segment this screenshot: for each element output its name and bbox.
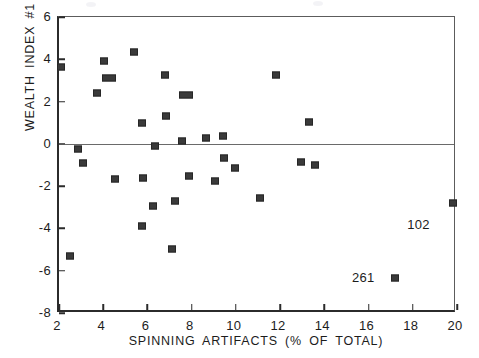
y-tick-label: -4 [23, 220, 51, 235]
y-tick [59, 101, 65, 103]
x-tick [279, 304, 281, 310]
data-point [202, 134, 210, 141]
data-point [256, 194, 264, 201]
data-point [220, 154, 228, 161]
y-tick [59, 270, 65, 272]
y-tick-label: -6 [23, 262, 51, 277]
point-label-102: 102 [407, 217, 430, 232]
plot-area [57, 16, 455, 312]
data-point [179, 92, 193, 99]
data-point [139, 174, 147, 181]
y-tick [59, 16, 65, 18]
x-tick-label: 20 [447, 318, 462, 333]
scan-artifact [86, 2, 96, 7]
data-point [149, 203, 157, 210]
data-point [178, 137, 186, 144]
data-point [211, 177, 219, 184]
zero-reference-line [59, 144, 454, 146]
x-tick [412, 304, 414, 310]
data-point [138, 223, 146, 230]
y-tick-label: -8 [23, 305, 51, 320]
x-tick-label: 16 [359, 318, 374, 333]
data-point [57, 63, 65, 70]
y-tick [59, 59, 65, 61]
y-axis-label: WEALTH INDEX #1 [23, 0, 37, 167]
point-label-261: 261 [352, 270, 375, 285]
x-tick [324, 304, 326, 310]
data-point [311, 162, 319, 169]
data-point [391, 275, 399, 282]
x-tick [191, 304, 193, 310]
data-point [162, 113, 170, 120]
y-tick [59, 185, 65, 187]
x-tick-label: 8 [186, 318, 194, 333]
data-point [151, 142, 159, 149]
x-tick-label: 4 [97, 318, 105, 333]
data-point [79, 159, 87, 166]
x-tick [456, 304, 458, 310]
data-point [102, 75, 116, 82]
x-axis-label: SPINNING ARTIFACTS (% OF TOTAL) [57, 334, 455, 348]
data-point [161, 72, 169, 79]
data-point [111, 175, 119, 182]
data-point [272, 72, 280, 79]
data-point [130, 48, 138, 55]
scan-artifact [313, 1, 323, 6]
data-point [185, 172, 193, 179]
data-point [100, 58, 108, 65]
x-tick [58, 304, 60, 310]
y-tick-label: -2 [23, 178, 51, 193]
x-tick-label: 12 [271, 318, 286, 333]
x-tick-label: 14 [315, 318, 330, 333]
data-point [74, 146, 82, 153]
x-tick-label: 18 [403, 318, 418, 333]
data-point [168, 245, 176, 252]
x-tick [102, 304, 104, 310]
x-tick-label: 10 [226, 318, 241, 333]
y-tick [59, 312, 65, 314]
data-point [93, 90, 101, 97]
x-tick [368, 304, 370, 310]
data-point [219, 133, 227, 140]
x-tick-label: 2 [53, 318, 61, 333]
data-point [231, 165, 239, 172]
scatter-plot-figure: 2468101214161820 -8-6-4-20246 102261 SPI… [0, 0, 479, 358]
x-tick [147, 304, 149, 310]
x-tick [235, 304, 237, 310]
data-point [297, 158, 305, 165]
data-point [449, 200, 457, 207]
y-tick [59, 228, 65, 230]
data-point [305, 118, 313, 125]
data-point [138, 119, 146, 126]
y-tick [59, 143, 65, 145]
data-point [171, 197, 179, 204]
data-point [66, 252, 74, 259]
x-tick-label: 6 [142, 318, 150, 333]
